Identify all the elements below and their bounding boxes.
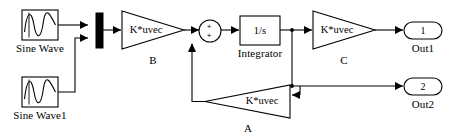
block-diagram-canvas: Sine Wave Sine Wave1 K*uvec B K*uvec C K… <box>0 0 449 137</box>
gain-b-caption: B <box>149 55 156 66</box>
integrator-label: Integrator <box>238 48 282 59</box>
out2-port-number: 2 <box>421 82 426 92</box>
sum-sign-plus-1: + <box>207 23 212 31</box>
sum-sign-plus-2: + <box>207 32 212 40</box>
gain-a-expression: K*uvec <box>246 96 279 107</box>
signal-branch-to-gain-a <box>292 86 300 99</box>
sine-wave-label: Sine Wave <box>16 43 64 54</box>
gain-c-expression: K*uvec <box>321 25 354 36</box>
mux-block[interactable] <box>96 13 103 48</box>
out2-label: Out2 <box>412 99 434 110</box>
gain-b-expression: K*uvec <box>130 25 163 36</box>
gain-c-caption: C <box>340 55 347 66</box>
gain-a-caption: A <box>244 123 252 134</box>
signal-gain-a-to-sum <box>188 43 205 102</box>
sine-wave1-block[interactable] <box>22 77 58 107</box>
junction-dot-upper <box>290 28 294 32</box>
sine-wave-block[interactable] <box>22 10 58 40</box>
out1-label: Out1 <box>412 43 434 54</box>
diagram-svg <box>0 0 449 137</box>
integrator-expression: 1/s <box>254 26 266 37</box>
sine-wave1-label: Sine Wave1 <box>13 110 66 121</box>
out1-port-number: 1 <box>421 26 426 36</box>
